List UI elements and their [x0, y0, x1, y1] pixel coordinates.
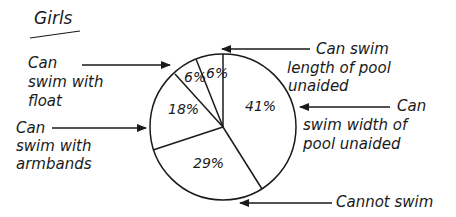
slice-label-width: 41%: [245, 98, 276, 114]
slice-label-length: 6%: [206, 65, 228, 81]
label-length-line3: unaided: [288, 77, 349, 95]
slice-label-armbands: 18%: [168, 101, 199, 117]
label-armbands-line2: swim with: [16, 137, 91, 155]
label-width-line1: Can: [397, 97, 426, 115]
title-underline: [30, 31, 80, 38]
pie-chart: Girls 41% 29% 18% 6% 6% Can swim with fl…: [0, 0, 456, 217]
label-length-line2: length of pool: [287, 59, 392, 77]
slice-label-float: 6%: [184, 69, 206, 85]
label-armbands-line1: Can: [16, 119, 45, 137]
label-cannot: Cannot swim: [336, 193, 433, 211]
label-float: Can swim with float: [28, 54, 103, 110]
label-armbands: Can swim with armbands: [16, 119, 92, 173]
label-width-line3: pool unaided: [302, 135, 401, 153]
label-width: Can swim width of pool unaided: [302, 97, 426, 153]
label-float-line1: Can: [28, 54, 57, 72]
label-float-line3: float: [28, 92, 63, 110]
chart-title: Girls: [34, 8, 73, 28]
slice-label-cannot: 29%: [193, 155, 224, 171]
label-float-line2: swim with: [28, 73, 103, 91]
label-armbands-line3: armbands: [16, 155, 92, 173]
label-length: Can swim length of pool unaided: [287, 40, 392, 95]
label-length-line1: Can swim: [316, 40, 389, 58]
label-cannot-line1: Cannot swim: [336, 193, 433, 211]
label-width-line2: swim width of: [303, 116, 410, 134]
